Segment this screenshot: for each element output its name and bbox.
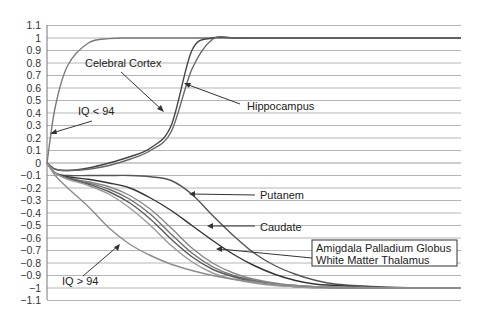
y-tick-label: −0.9 bbox=[20, 269, 41, 281]
annotation-hippocampus: Hippocampus bbox=[184, 83, 315, 112]
y-tick-label: −0.5 bbox=[20, 219, 41, 231]
y-tick-label: 0.9 bbox=[26, 44, 41, 56]
arrowhead-icon bbox=[207, 223, 213, 229]
y-tick-label: 0.6 bbox=[26, 82, 41, 94]
y-tick-label: −1.1 bbox=[20, 294, 41, 306]
y-tick-label: −0.7 bbox=[20, 244, 41, 256]
label-iq-low: IQ < 94 bbox=[78, 105, 114, 117]
y-tick-label: −0.6 bbox=[20, 232, 41, 244]
arrowhead-icon bbox=[114, 244, 120, 251]
y-tick-label: 0.8 bbox=[26, 57, 41, 69]
y-tick-label: 0.1 bbox=[26, 144, 41, 156]
label-caudate: Caudate bbox=[260, 221, 302, 233]
label-celebral-cortex: Celebral Cortex bbox=[85, 57, 162, 69]
label-putanem: Putanem bbox=[260, 189, 304, 201]
annotation-caudate: Caudate bbox=[207, 221, 302, 233]
legend-line-1: Amigdala Palladium Globus bbox=[316, 242, 452, 254]
y-tick-label: 0.3 bbox=[26, 119, 41, 131]
y-tick-label: 1.1 bbox=[26, 19, 41, 31]
annotation-celebral-cortex: Celebral Cortex bbox=[85, 57, 164, 112]
annotation-iq-low: IQ < 94 bbox=[50, 105, 114, 134]
label-iq-high: IQ > 94 bbox=[62, 275, 98, 287]
label-hippocampus: Hippocampus bbox=[247, 100, 315, 112]
y-tick-label: −0.1 bbox=[20, 169, 41, 181]
y-tick-label: −0.2 bbox=[20, 182, 41, 194]
y-tick-label: 0.4 bbox=[26, 107, 41, 119]
y-tick-label: 1 bbox=[35, 32, 41, 44]
arrow-line bbox=[192, 194, 255, 195]
y-tick-label: −0.4 bbox=[20, 207, 41, 219]
y-tick-label: −0.8 bbox=[20, 257, 41, 269]
y-tick-label: −0.3 bbox=[20, 194, 41, 206]
annotation-putanem: Putanem bbox=[189, 189, 304, 201]
y-tick-label: 0 bbox=[35, 157, 41, 169]
y-tick-label: 0.5 bbox=[26, 94, 41, 106]
y-tick-label: 0.7 bbox=[26, 69, 41, 81]
legend-line-2: White Matter Thalamus bbox=[316, 254, 430, 266]
arrow-line bbox=[121, 72, 162, 110]
legend-box: Amigdala Palladium Globus White Matter T… bbox=[216, 240, 457, 266]
y-axis-ticks: 1.110.90.80.70.60.50.40.30.20.10−0.1−0.2… bbox=[20, 19, 41, 306]
line-chart: 1.110.90.80.70.60.50.40.30.20.10−0.1−0.2… bbox=[0, 0, 479, 321]
y-tick-label: −1 bbox=[29, 282, 41, 294]
arrowhead-icon bbox=[216, 246, 222, 252]
y-tick-label: 0.2 bbox=[26, 132, 41, 144]
arrow-line bbox=[52, 121, 92, 133]
